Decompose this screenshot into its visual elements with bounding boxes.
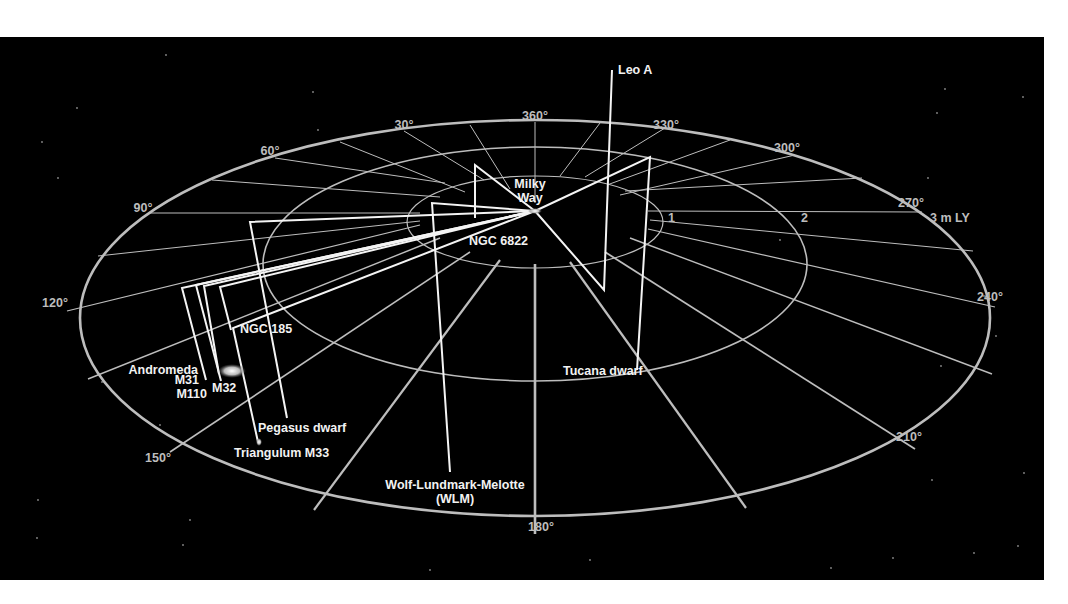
grid-spoke [340, 142, 465, 192]
star-dot [312, 91, 314, 93]
star-dot [317, 129, 319, 131]
star-dot [182, 544, 184, 546]
star-dot [159, 424, 161, 426]
grid-spoke [650, 220, 973, 251]
background-stars [36, 54, 1025, 571]
distance-ring-labels: 123 m LY [668, 211, 971, 225]
degree-label-210: 210° [896, 430, 922, 444]
star-dot [936, 112, 938, 114]
grid-spoke [630, 238, 992, 374]
grid-spoke [314, 260, 500, 510]
degree-label-300: 300° [774, 141, 800, 155]
local-group-diagram: 123 m LY 360°30°60°90°120°150°180°210°24… [0, 0, 1068, 604]
galaxy-label-leo-a: Leo A [618, 63, 652, 77]
ring-label-1: 1 [668, 211, 675, 225]
galaxy-label-wolf-lundmark-melotte-wlm: Wolf-Lundmark-Melotte(WLM) [385, 478, 524, 506]
star-dot [41, 141, 43, 143]
degree-label-30: 30° [395, 118, 414, 132]
galaxy-label-m31: M31 [175, 373, 199, 387]
star-dot [892, 557, 894, 559]
degree-label-120: 120° [42, 296, 68, 310]
galaxy-label-line: Way [517, 191, 542, 205]
galaxy-label-pegasus-dwarf: Pegasus dwarf [258, 421, 347, 435]
galaxy-label-line: Triangulum M33 [234, 446, 329, 460]
galaxy-label-triangulum-m33: Triangulum M33 [234, 446, 329, 460]
galaxy-label-m110: M110 [176, 387, 207, 401]
degree-label-60: 60° [261, 144, 280, 158]
star-dot [779, 239, 781, 241]
degree-label-270: 270° [898, 196, 924, 210]
galaxy-label-line: Leo A [618, 63, 652, 77]
galaxy-label-tucana-dwarf: Tucana dwarf [563, 364, 643, 378]
grid-spoke [648, 229, 995, 307]
grid-spoke [648, 211, 922, 212]
galaxy-label-line: M31 [175, 373, 199, 387]
star-dot [589, 559, 591, 561]
galaxy-label-line: Wolf-Lundmark-Melotte [385, 478, 524, 492]
degree-label-330: 330° [653, 118, 679, 132]
milky-way-core [528, 208, 542, 214]
galaxy-label-ngc-6822: NGC 6822 [469, 234, 528, 248]
star-dot [944, 88, 946, 90]
star-dot [1023, 472, 1025, 474]
star-dot [429, 569, 431, 571]
star-dot [189, 519, 191, 521]
star-dot [37, 499, 39, 501]
degree-label-240: 240° [977, 290, 1003, 304]
galaxy-label-line: M32 [212, 381, 236, 395]
star-dot [830, 567, 832, 569]
star-dot [1022, 96, 1024, 98]
galaxy-label-line: (WLM) [436, 492, 474, 506]
star-dot [927, 177, 929, 179]
star-dot [1017, 545, 1019, 547]
star-dot [995, 335, 997, 337]
star-dot [165, 54, 167, 56]
galaxy-label-line: Milky [514, 177, 545, 191]
star-dot [57, 177, 59, 179]
grid-spoke [570, 262, 746, 508]
star-dot [931, 479, 933, 481]
andromeda-galaxy-image [218, 364, 246, 378]
ring-label-2: 2 [801, 211, 808, 225]
star-dot [76, 107, 78, 109]
grid-spoke [605, 252, 915, 449]
galaxy-label-line: NGC 185 [240, 322, 292, 336]
galaxy-label-line: NGC 6822 [469, 234, 528, 248]
galaxy-label-line: Tucana dwarf [563, 364, 643, 378]
galaxy-position-lines [182, 70, 650, 472]
star-dot [36, 537, 38, 539]
galaxy-label-line: M110 [176, 387, 207, 401]
degree-label-180: 180° [528, 520, 554, 534]
galaxy-label-milky-way: MilkyWay [514, 177, 545, 205]
galaxy-label-m32: M32 [212, 381, 236, 395]
star-dot [973, 552, 975, 554]
triangulum-galaxy-image [256, 438, 262, 446]
degree-labels: 360°30°60°90°120°150°180°210°240°270°300… [42, 109, 1003, 534]
star-dot [940, 365, 942, 367]
degree-label-360: 360° [522, 109, 548, 123]
ring-label-3-m-ly: 3 m LY [930, 211, 971, 225]
degree-label-150: 150° [145, 451, 171, 465]
galaxy-label-ngc-185: NGC 185 [240, 322, 292, 336]
galaxy-label-line: Pegasus dwarf [258, 421, 347, 435]
grid-spoke [275, 158, 445, 183]
degree-label-90: 90° [134, 201, 153, 215]
grid-spoke [620, 155, 795, 195]
